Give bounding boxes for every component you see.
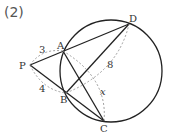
label-A: A bbox=[56, 40, 65, 51]
label-D: D bbox=[129, 13, 137, 24]
length-PA: 3 bbox=[39, 44, 45, 55]
line-AC bbox=[63, 51, 104, 121]
label-B: B bbox=[60, 94, 67, 105]
geometry-diagram: P A B C D 3 4 8 x bbox=[0, 0, 171, 138]
length-AC: x bbox=[100, 86, 106, 97]
label-C: C bbox=[100, 123, 108, 134]
length-PB: 4 bbox=[39, 83, 45, 94]
length-BD: 8 bbox=[107, 59, 113, 70]
label-P: P bbox=[19, 60, 26, 71]
